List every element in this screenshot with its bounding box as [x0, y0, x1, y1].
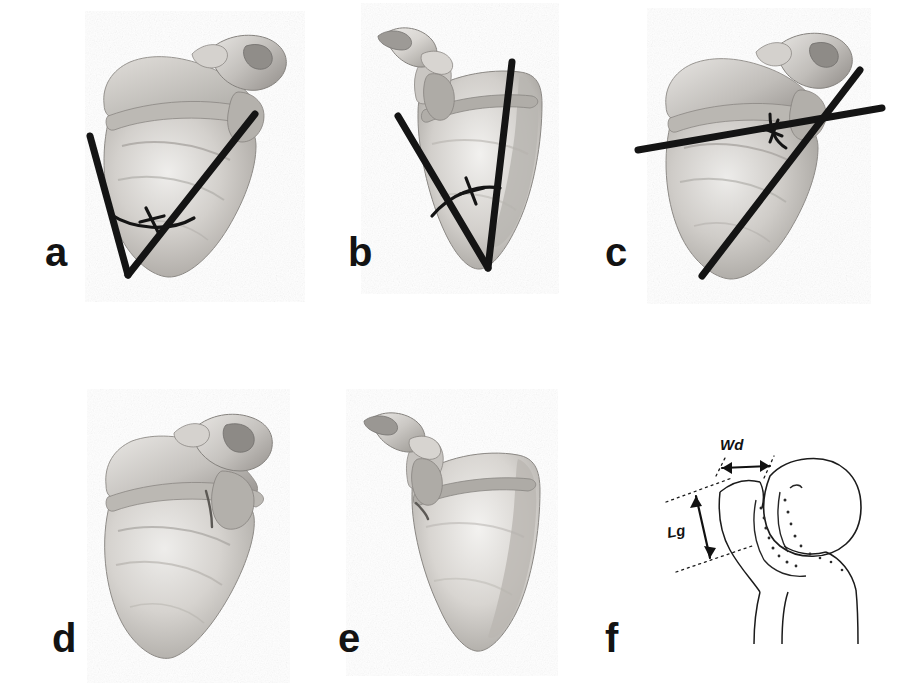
figure-plate: a — [0, 0, 911, 692]
panel-letter-b: b — [348, 232, 372, 272]
lg-label: Lg — [666, 521, 687, 541]
scapula-specimen-e — [360, 405, 590, 650]
scapula-body-b — [378, 28, 542, 269]
measurement-wd-f: Wd — [716, 436, 774, 478]
wd-label: Wd — [720, 436, 744, 453]
scapula-specimen-a — [60, 18, 310, 293]
panel-letter-f: f — [605, 618, 618, 658]
panel-c — [630, 18, 900, 293]
panel-f: Wd Lg — [660, 430, 900, 660]
panel-letter-e: e — [338, 618, 360, 658]
panel-letter-c: c — [605, 232, 627, 272]
wd-arrow — [722, 460, 770, 474]
scapula-specimen-c — [630, 18, 900, 293]
panel-letter-d: d — [52, 618, 76, 658]
femur-trabecular-marks-f — [754, 485, 806, 576]
panel-letter-a: a — [45, 232, 67, 272]
panel-d — [70, 405, 320, 650]
lg-arrow — [690, 496, 716, 558]
panel-a — [60, 18, 310, 293]
femur-line-drawing-f: Wd Lg — [660, 430, 900, 660]
scapula-body-a — [104, 35, 287, 277]
scapula-body-e — [364, 413, 540, 651]
scapula-specimen-b — [370, 18, 590, 293]
measurement-lg-f: Lg — [666, 478, 752, 572]
panel-e — [360, 405, 590, 650]
femur-stipple-f — [760, 499, 844, 572]
wd-guide-left — [716, 456, 726, 476]
scapula-body-d — [105, 414, 273, 658]
panel-b — [370, 18, 590, 293]
scapula-body-c — [666, 33, 853, 279]
femur-contours-f — [719, 480, 858, 644]
scapula-specimen-d — [70, 405, 320, 650]
